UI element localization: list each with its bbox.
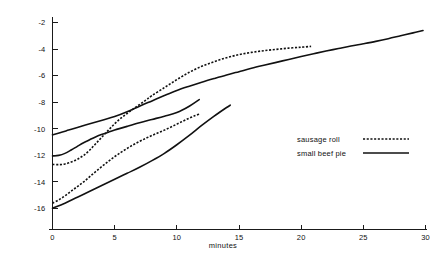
series-line <box>53 46 312 164</box>
x-tick-label: 10 <box>172 233 181 242</box>
legend-label: sausage roll <box>297 135 340 144</box>
series-line <box>53 105 231 208</box>
line-chart: -2-4-6-8-10-12-14-16051015202530 sausage… <box>0 0 437 257</box>
axes: -2-4-6-8-10-12-14-16051015202530 <box>34 17 430 242</box>
chart-container: -2-4-6-8-10-12-14-16051015202530 sausage… <box>0 0 437 257</box>
series-line <box>53 30 424 134</box>
x-tick-label: 25 <box>359 233 368 242</box>
y-tick-label: -2 <box>38 18 45 27</box>
y-tick-label: -4 <box>38 45 45 54</box>
legend-label: small beef pie <box>297 149 346 158</box>
y-tick-label: -16 <box>34 204 45 213</box>
y-tick-label: -12 <box>34 151 45 160</box>
y-tick-label: -8 <box>38 98 45 107</box>
x-tick-label: 30 <box>421 233 430 242</box>
y-tick-label: -10 <box>34 125 45 134</box>
chart-legend: sausage rollsmall beef pie <box>297 135 409 158</box>
data-series <box>53 30 424 208</box>
y-tick-label: -6 <box>38 71 45 80</box>
x-axis-title: minutes <box>209 241 237 250</box>
y-tick-label: -14 <box>34 178 45 187</box>
x-tick-label: 0 <box>50 233 54 242</box>
x-tick-label: 20 <box>297 233 306 242</box>
x-tick-label: 5 <box>112 233 116 242</box>
